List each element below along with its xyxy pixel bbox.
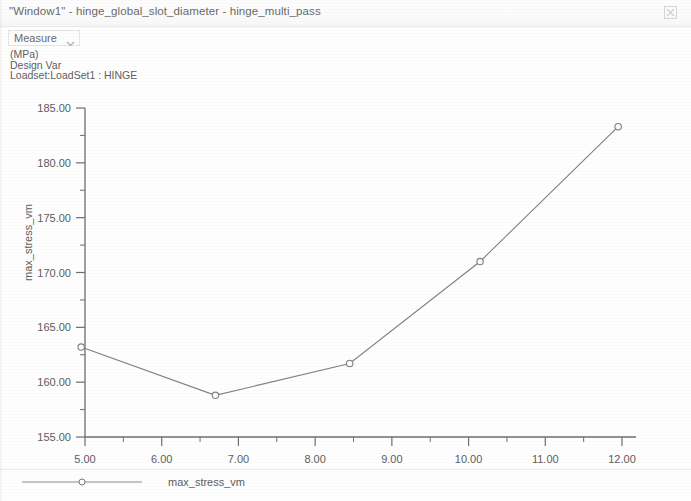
svg-text:10.00: 10.00 [455, 453, 483, 465]
axis-titles: slot_diameter:HINGEmax_stress_vm [22, 204, 524, 470]
svg-text:9.00: 9.00 [381, 453, 402, 465]
close-icon[interactable] [664, 6, 677, 19]
svg-text:155.00: 155.00 [37, 431, 71, 443]
svg-text:165.00: 165.00 [37, 321, 71, 333]
data-series [78, 123, 621, 398]
x-axis: 5.006.007.008.009.0010.0011.0012.00 [74, 437, 636, 465]
legend-series-label: max_stress_vm [168, 476, 245, 488]
svg-text:160.00: 160.00 [37, 376, 71, 388]
legend-item-max-stress-vm[interactable]: max_stress_vm [22, 476, 245, 488]
units-annotation: (MPa) [10, 49, 137, 60]
svg-text:8.00: 8.00 [304, 453, 325, 465]
svg-text:185.00: 185.00 [37, 102, 71, 114]
window-title: "Window1" - hinge_global_slot_diameter -… [9, 5, 321, 17]
plot-annotation-block: (MPa) Design Var Loadset:LoadSet1 : HING… [10, 49, 137, 81]
line-chart: 155.00160.00165.00170.00175.00180.00185.… [0, 85, 691, 470]
loadset-annotation: Loadset:LoadSet1 : HINGE [10, 70, 137, 81]
window-titlebar: "Window1" - hinge_global_slot_diameter -… [0, 0, 691, 27]
y-axis: 155.00160.00165.00170.00175.00180.00185.… [37, 102, 85, 443]
svg-text:175.00: 175.00 [37, 212, 71, 224]
chart-canvas: 155.00160.00165.00170.00175.00180.00185.… [0, 85, 691, 470]
svg-text:180.00: 180.00 [37, 157, 71, 169]
svg-text:6.00: 6.00 [151, 453, 172, 465]
chart-legend: max_stress_vm [0, 469, 691, 501]
svg-text:max_stress_vm: max_stress_vm [22, 204, 34, 281]
svg-text:11.00: 11.00 [532, 453, 559, 465]
svg-text:5.00: 5.00 [74, 453, 95, 465]
measure-dropdown[interactable]: Measure [8, 30, 80, 46]
measure-dropdown-label: Measure [14, 32, 57, 44]
svg-text:7.00: 7.00 [228, 453, 249, 465]
chevron-down-icon [66, 34, 75, 43]
svg-text:12.00: 12.00 [608, 453, 636, 465]
plot-window: "Window1" - hinge_global_slot_diameter -… [0, 0, 691, 501]
svg-text:170.00: 170.00 [37, 267, 71, 279]
circle-marker-icon [22, 476, 142, 488]
